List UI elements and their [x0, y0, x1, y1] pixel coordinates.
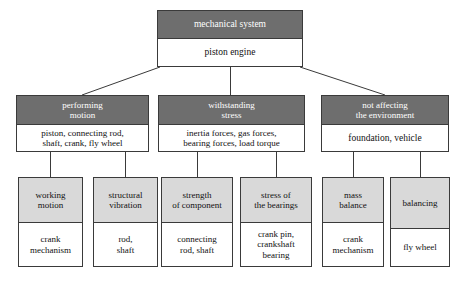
- node-mass-balance: mass balance crank mechanism: [322, 177, 384, 267]
- node-header: balancing: [391, 178, 449, 228]
- node-working-motion: working motion crank mechanism: [18, 177, 83, 267]
- node-balancing: balancing fly wheel: [390, 177, 450, 267]
- node-body: connecting rod, shaft: [162, 222, 232, 266]
- node-body: piston engine: [158, 38, 302, 66]
- node-header: not affecting the environment: [322, 96, 448, 124]
- node-body: crank mechanism: [323, 222, 383, 266]
- node-body: crank mechanism: [19, 222, 82, 266]
- node-body: inertia forces, gas forces, bearing forc…: [159, 124, 304, 151]
- node-header: stress of the bearings: [241, 178, 311, 222]
- node-strength-of-component: strength of component connecting rod, sh…: [161, 177, 233, 267]
- node-header: withstanding stress: [159, 96, 304, 124]
- node-header: structural vibration: [94, 178, 157, 222]
- node-header: strength of component: [162, 178, 232, 222]
- node-withstanding-stress: withstanding stress inertia forces, gas …: [158, 95, 305, 152]
- node-body: foundation, vehicle: [322, 124, 448, 151]
- node-body: fly wheel: [391, 228, 449, 266]
- mechanical-system-hierarchy-diagram: mechanical system piston engine performi…: [0, 0, 459, 281]
- node-header: mechanical system: [158, 11, 302, 38]
- node-stress-of-the-bearings: stress of the bearings crank pin, cranks…: [240, 177, 312, 267]
- edge-root-to-branch-0: [82, 67, 160, 95]
- node-body: piston, connecting rod, shaft, crank, fl…: [17, 124, 148, 151]
- node-not-affecting-the-environment: not affecting the environment foundation…: [321, 95, 449, 152]
- node-header: mass balance: [323, 178, 383, 222]
- node-mechanical-system: mechanical system piston engine: [157, 10, 303, 67]
- node-structural-vibration: structural vibration rod, shaft: [93, 177, 158, 267]
- node-header: performing motion: [17, 96, 148, 124]
- edge-root-to-branch-2: [300, 67, 385, 95]
- node-header: working motion: [19, 178, 82, 222]
- node-body: crank pin, crankshaft bearing: [241, 222, 311, 266]
- node-body: rod, shaft: [94, 222, 157, 266]
- node-performing-motion: performing motion piston, connecting rod…: [16, 95, 149, 152]
